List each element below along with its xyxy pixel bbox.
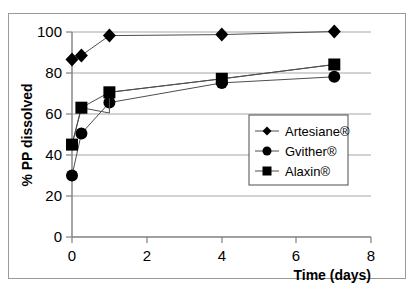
y-tick-label-0: 0: [54, 228, 62, 245]
data-point-marker: [103, 86, 115, 98]
y-tick-label-40: 40: [45, 146, 62, 163]
chart-plot: 100 80 60 40 20 0 0 2 4 6 8 % PP dissolv…: [0, 0, 415, 293]
data-point-marker: [328, 25, 341, 39]
data-point-marker: [216, 73, 228, 85]
chart-figure: 100 80 60 40 20 0 0 2 4 6 8 % PP dissolv…: [0, 0, 415, 293]
x-tick-label-0: 0: [68, 247, 76, 264]
x-axis-tick-labels: 0 2 4 6 8: [68, 247, 375, 264]
x-axis-title: Time (days): [293, 267, 371, 283]
data-point-marker: [75, 102, 87, 114]
legend-label-gvither: Gvither®: [285, 144, 337, 159]
x-tick-label-8: 8: [367, 247, 375, 264]
x-tick-label-2: 2: [143, 247, 151, 264]
data-point-marker: [66, 170, 78, 182]
y-tick-label-80: 80: [45, 64, 62, 81]
x-tick-label-4: 4: [218, 247, 226, 264]
y-axis-tick-labels: 100 80 60 40 20 0: [37, 23, 62, 245]
data-point-marker: [75, 128, 87, 140]
chart-legend[interactable]: Artesiane® Gvither® Alaxin®: [249, 115, 350, 185]
circle-icon: [263, 147, 272, 156]
data-point-marker: [215, 28, 228, 42]
data-point-marker: [328, 71, 340, 83]
series-artesiane-markers: [66, 25, 341, 67]
square-icon: [263, 167, 272, 176]
x-axis-ticks: [72, 237, 371, 243]
y-axis-title: % PP dissolved: [19, 83, 35, 186]
y-tick-label-60: 60: [45, 105, 62, 122]
y-tick-label-100: 100: [37, 23, 62, 40]
data-point-marker: [328, 59, 340, 71]
legend-label-alaxin: Alaxin®: [285, 164, 330, 179]
series-artesiane: [66, 25, 341, 67]
legend-label-artesiane: Artesiane®: [285, 124, 350, 139]
y-tick-label-20: 20: [45, 187, 62, 204]
x-tick-label-6: 6: [292, 247, 300, 264]
data-point-marker: [66, 139, 78, 151]
data-point-marker: [103, 29, 116, 43]
